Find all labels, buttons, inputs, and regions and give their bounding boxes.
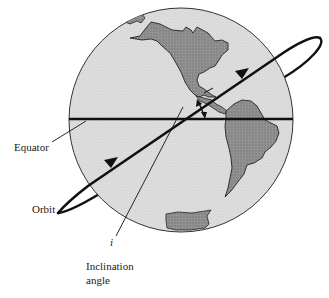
equator-label: Equator [14, 140, 49, 154]
antarctica-fragment [166, 210, 211, 230]
orbit-inclination-figure: Equator Orbit i Inclination angle [0, 0, 329, 298]
orbit-label: Orbit [32, 202, 55, 216]
diagram-canvas [0, 0, 329, 298]
inclination-label-line1: Inclination [86, 259, 134, 273]
inclination-angle-label: Inclination angle [86, 259, 134, 287]
figure-caption-cutoff [8, 293, 320, 298]
inclination-label-line2: angle [86, 273, 134, 287]
inclination-symbol-label: i [110, 235, 113, 249]
